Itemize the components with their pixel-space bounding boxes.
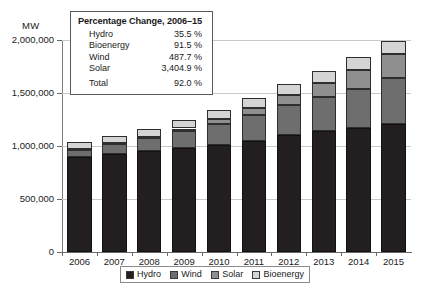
bar-segment-bioenergy-2011[interactable] (242, 98, 266, 108)
callout-value: 3,404.9 % (161, 63, 202, 74)
bar-segment-hydro-2010[interactable] (207, 145, 231, 252)
y-tick-mark (57, 199, 62, 200)
callout-total-label: Total (89, 78, 108, 89)
bar-segment-hydro-2012[interactable] (277, 135, 301, 252)
bar-segment-solar-2008[interactable] (137, 137, 161, 139)
x-tick-mark (62, 252, 63, 256)
bar-segment-wind-2012[interactable] (277, 105, 301, 135)
bar-segment-bioenergy-2014[interactable] (346, 57, 370, 69)
chart-legend: HydroWindSolarBioenergy (120, 266, 310, 283)
bar-segment-hydro-2009[interactable] (172, 148, 196, 252)
bar-segment-wind-2009[interactable] (172, 131, 196, 148)
x-tick-mark (306, 252, 307, 256)
callout-label: Hydro (89, 29, 113, 40)
legend-swatch-solar (211, 271, 219, 279)
bar-segment-solar-2009[interactable] (172, 129, 196, 132)
callout-row-solar: Solar3,404.9 % (78, 63, 205, 74)
y-tick-mark (57, 40, 62, 41)
x-tick-mark (271, 252, 272, 256)
legend-swatch-wind (170, 271, 178, 279)
callout-value: 487.7 % (169, 52, 202, 63)
y-tick-2000000: 2,000,000 (12, 35, 54, 45)
bar-segment-solar-2011[interactable] (242, 108, 266, 116)
callout-row-hydro: Hydro35.5 % (78, 29, 205, 40)
callout-title: Percentage Change, 2006–15 (78, 16, 205, 27)
x-tick-2006: 2006 (62, 256, 97, 267)
x-tick-mark (237, 252, 238, 256)
y-tick-mark (57, 93, 62, 94)
callout-value: 35.5 % (174, 29, 202, 40)
y-tick-0: 0 (49, 247, 54, 257)
bar-segment-solar-2007[interactable] (102, 143, 126, 145)
bar-segment-wind-2007[interactable] (102, 144, 126, 154)
callout-total-value: 92.0 % (174, 78, 202, 89)
bar-segment-wind-2010[interactable] (207, 124, 231, 145)
bar-segment-wind-2015[interactable] (381, 78, 405, 124)
y-tick-500000: 500,000 (20, 194, 54, 204)
bar-segment-solar-2010[interactable] (207, 119, 231, 123)
x-tick-mark (376, 252, 377, 256)
x-tick-mark (202, 252, 203, 256)
stacked-bar-chart: MW 0500,0001,000,0001,500,0002,000,000 2… (0, 0, 428, 292)
callout-value: 91.5 % (174, 40, 202, 51)
x-tick-2013: 2013 (306, 256, 341, 267)
x-tick-mark (167, 252, 168, 256)
bar-segment-bioenergy-2015[interactable] (381, 41, 405, 54)
legend-swatch-hydro (126, 271, 134, 279)
callout-label: Wind (89, 52, 110, 63)
legend-item-hydro[interactable]: Hydro (126, 269, 161, 280)
bar-group-2013[interactable] (312, 40, 336, 252)
bar-segment-bioenergy-2009[interactable] (172, 120, 196, 128)
bar-group-2011[interactable] (242, 40, 266, 252)
y-axis-unit-label: MW (22, 20, 39, 31)
x-tick-2014: 2014 (341, 256, 376, 267)
callout-row-wind: Wind487.7 % (78, 52, 205, 63)
bar-segment-hydro-2006[interactable] (67, 157, 91, 252)
legend-label: Bioenergy (263, 269, 304, 280)
legend-item-solar[interactable]: Solar (211, 269, 243, 280)
y-tick-1500000: 1,500,000 (12, 88, 54, 98)
legend-label: Solar (222, 269, 243, 280)
bar-segment-bioenergy-2007[interactable] (102, 136, 126, 143)
bar-segment-hydro-2014[interactable] (346, 128, 370, 252)
callout-row-total: Total 92.0 % (78, 78, 205, 89)
bar-segment-solar-2013[interactable] (312, 83, 336, 98)
callout-label: Bioenergy (89, 40, 130, 51)
y-tick-mark (57, 146, 62, 147)
bar-group-2012[interactable] (277, 40, 301, 252)
legend-label: Hydro (137, 269, 161, 280)
bar-segment-wind-2014[interactable] (346, 89, 370, 128)
bar-segment-wind-2008[interactable] (137, 138, 161, 151)
bar-segment-solar-2014[interactable] (346, 70, 370, 89)
percentage-change-callout: Percentage Change, 2006–15 Hydro35.5 %Bi… (70, 11, 213, 95)
bar-segment-solar-2006[interactable] (67, 149, 91, 151)
bar-segment-hydro-2011[interactable] (242, 141, 266, 252)
bar-segment-wind-2013[interactable] (312, 97, 336, 131)
y-tick-1000000: 1,000,000 (12, 141, 54, 151)
x-tick-mark (132, 252, 133, 256)
bar-segment-bioenergy-2010[interactable] (207, 110, 231, 119)
callout-label: Solar (89, 63, 110, 74)
legend-swatch-bioenergy (252, 271, 260, 279)
bar-segment-hydro-2008[interactable] (137, 151, 161, 252)
legend-label: Wind (181, 269, 202, 280)
bar-group-2015[interactable] (381, 40, 405, 252)
bar-segment-wind-2011[interactable] (242, 115, 266, 140)
x-tick-2015: 2015 (376, 256, 411, 267)
bar-group-2014[interactable] (346, 40, 370, 252)
bar-segment-hydro-2013[interactable] (312, 131, 336, 252)
bar-segment-hydro-2007[interactable] (102, 154, 126, 252)
legend-item-wind[interactable]: Wind (170, 269, 202, 280)
bar-segment-solar-2015[interactable] (381, 54, 405, 78)
bar-segment-bioenergy-2008[interactable] (137, 129, 161, 137)
callout-row-bioenergy: Bioenergy91.5 % (78, 40, 205, 51)
legend-item-bioenergy[interactable]: Bioenergy (252, 269, 304, 280)
bar-segment-bioenergy-2006[interactable] (67, 142, 91, 149)
bar-segment-bioenergy-2012[interactable] (277, 84, 301, 95)
x-tick-mark (97, 252, 98, 256)
bar-segment-solar-2012[interactable] (277, 95, 301, 106)
bar-segment-bioenergy-2013[interactable] (312, 71, 336, 82)
bar-segment-hydro-2015[interactable] (381, 124, 405, 252)
x-tick-mark (341, 252, 342, 256)
